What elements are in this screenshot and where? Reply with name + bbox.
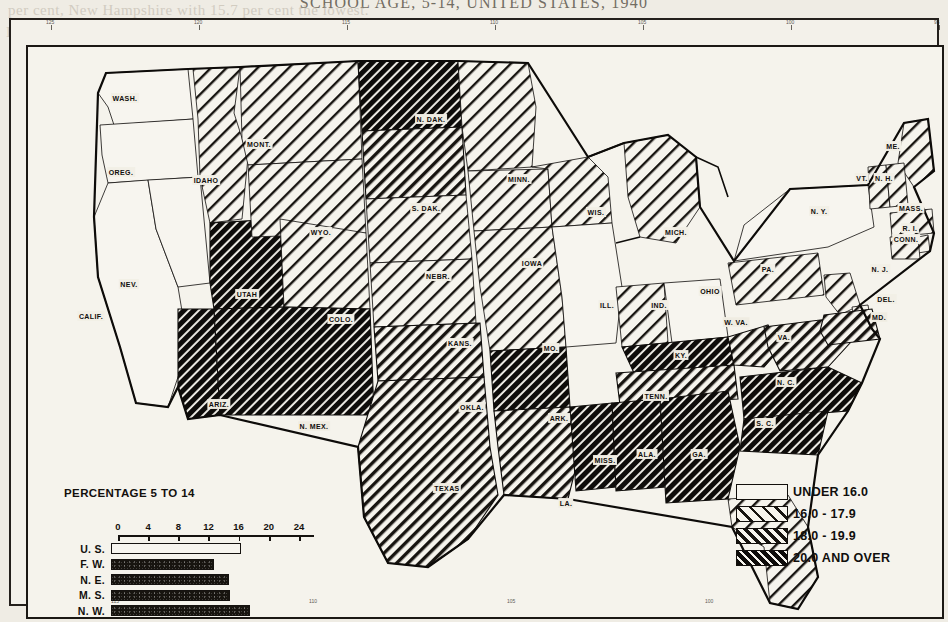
state-label: N. J. [871,265,890,274]
graticule-tick-label: 95 [934,19,940,25]
axis-tick-label: 16 [233,521,244,532]
state-label: KY. [674,351,688,360]
state-label: MONT. [246,140,272,149]
chart-bar-label: N. E. [61,574,111,586]
state-label: LA. [559,499,573,508]
state-label: MASS. [898,204,924,213]
state-label: WYO. [310,228,332,237]
great-lakes-shoreline [696,157,728,197]
state-mont [240,61,362,165]
state-ark [490,347,570,411]
graticule-tick-label: 105 [638,19,646,25]
graticule-tick [643,25,644,30]
chart-bar-row: F. W. [61,557,361,573]
chart-bar [111,574,229,585]
state-ri [918,235,930,253]
chart-title: PERCENTAGE 5 TO 14 [64,487,361,499]
graticule-tick-label: 100 [786,19,794,25]
chart-bar-rows: U. S.F. W.N. E.M. S.N. W.S. W.S. E. [61,541,361,619]
state-label: N. C. [776,378,796,387]
graticule-tick [939,25,940,30]
chart-bar [111,590,230,601]
state-label: MISS. [593,456,616,465]
legend-item: 20.0 AND OVER [736,547,890,569]
state-label: OREG. [108,168,135,177]
state-label: ARIZ. [208,400,230,409]
state-label: MINN. [507,175,531,184]
state-label: PA. [761,265,775,274]
graticule-tick [199,25,200,30]
graticule-tick-label: 115 [342,19,350,25]
chart-x-axis: 04812162024 [118,525,314,539]
state-label: ILL. [599,301,615,310]
state-label: S. C. [755,419,775,428]
state-label: IND. [650,301,668,310]
state-ga [660,391,740,503]
legend-label: 20.0 AND OVER [793,551,890,565]
state-label: KANS. [447,339,473,348]
graticule-tick-label: 100 [705,598,713,604]
state-ny [734,185,874,261]
state-minn [458,61,536,171]
state-label: N. H. [874,174,894,183]
graticule-tick-label: 110 [490,19,498,25]
chart-bar-label: F. W. [61,558,111,570]
state-ind [616,283,668,347]
state-nc [740,367,862,419]
state-label: OKLA. [459,403,485,412]
state-label: COLO. [328,315,354,324]
graticule-tick [51,25,52,30]
state-label: IOWA [521,259,543,268]
graticule-tick-label: 105 [507,598,515,604]
state-label: OHIO [699,287,721,296]
state-okla [374,323,484,381]
chart-bar-label: M. S. [61,589,111,601]
graticule-tick [791,25,792,30]
chart-bar-row: N. E. [61,572,361,588]
state-label: NEV. [119,280,138,289]
map-legend: UNDER 16.0 16.0 - 17.9 18.0 - 19.9 20.0 … [736,481,890,569]
state-sdak [362,127,466,199]
legend-label: 18.0 - 19.9 [793,529,856,543]
chart-bar [111,543,241,554]
chart-bar-label: N. W. [61,605,111,617]
legend-item: UNDER 16.0 [736,481,890,503]
state-label: R. I. [902,224,919,233]
graticule-tick-label: 110 [309,598,317,604]
state-label: UTAH [236,290,259,299]
state-label: ME. [885,142,901,151]
state-mo [474,227,566,351]
state-label: S. DAK. [411,204,441,213]
graticule-tick [495,25,496,30]
state-label: WIS. [587,208,606,217]
state-label: N. DAK. [416,115,447,124]
state-label: GA. [691,450,707,459]
axis-tick-label: 4 [145,521,150,532]
state-label: DEL. [876,295,896,304]
axis-tick-label: 24 [294,521,305,532]
legend-swatch-under-16 [736,484,788,500]
axis-tick-label: 8 [176,521,181,532]
state-label: N. MEX. [299,422,330,431]
map-frame-inner: WASH.OREG.IDAHONEV.CALIF.MONT.WYO.UTAHCO… [26,45,944,619]
state-label: MD. [871,313,887,322]
state-label: ARK. [549,414,570,423]
state-label: VA. [777,333,791,342]
state-label: W. VA. [723,318,749,327]
state-label: NEBR. [425,272,451,281]
state-label: IDAHO [193,176,220,185]
axis-tick-label: 0 [115,521,120,532]
state-label: ALA. [637,450,657,459]
state-label: TENN. [644,392,669,401]
graticule-tick-label: 125 [46,19,54,25]
state-label: CALIF. [78,312,104,321]
state-kans [370,259,476,327]
map-frame-outer: WASH.OREG.IDAHONEV.CALIF.MONT.WYO.UTAHCO… [9,18,939,606]
legend-swatch-20-over [736,550,788,566]
legend-label: UNDER 16.0 [793,485,868,499]
great-lakes-shoreline [616,237,640,243]
state-label: MICH. [664,228,688,237]
legend-item: 18.0 - 19.9 [736,525,890,547]
chart-bar-label: U. S. [61,543,111,555]
great-lakes-shoreline [588,143,624,157]
